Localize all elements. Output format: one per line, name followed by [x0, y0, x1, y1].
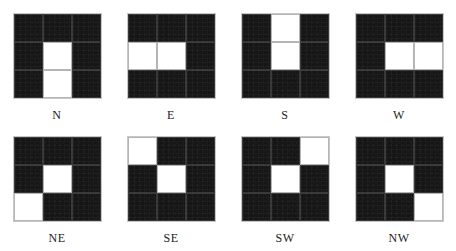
- grid-cell-r1-c3: [72, 137, 101, 165]
- grid-cell-r2-c1: [242, 42, 271, 70]
- pattern-label: NW: [388, 231, 409, 245]
- pattern-panel-w: W: [342, 13, 456, 122]
- grid-cell-r1-c2: [385, 137, 414, 165]
- grid-cell-r1-c3: [72, 14, 101, 42]
- grid-cell-r1-c2: [43, 137, 72, 165]
- grid-cell-r3-c1: [242, 70, 271, 98]
- pattern-panel-sw: SW: [228, 136, 342, 245]
- pattern-label: S: [281, 108, 288, 122]
- pattern-grid: [13, 13, 102, 99]
- grid-cell-r2-c2: [271, 165, 300, 193]
- grid-cell-r2-c3: [300, 165, 329, 193]
- grid-cell-r3-c1: [356, 193, 385, 221]
- pattern-panel-e: E: [114, 13, 228, 122]
- grid-cell-r2-c3: [300, 42, 329, 70]
- pattern-grid: [13, 136, 102, 222]
- grid-cell-r1-c2: [271, 137, 300, 165]
- grid-cell-r2-c1: [128, 165, 157, 193]
- grid-cell-r2-c1: [242, 165, 271, 193]
- grid-cell-r1-c3: [186, 14, 215, 42]
- grid-cell-r1-c1: [14, 137, 43, 165]
- pattern-grid: [241, 13, 330, 99]
- grid-cell-r2-c2: [157, 165, 186, 193]
- grid-cell-r3-c1: [356, 70, 385, 98]
- grid-cell-r1-c3: [414, 14, 443, 42]
- grid-cell-r2-c3: [186, 42, 215, 70]
- grid-cell-r2-c2: [385, 165, 414, 193]
- grid-cell-r3-c3: [300, 193, 329, 221]
- grid-cell-r1-c3: [414, 137, 443, 165]
- grid-cell-r3-c3: [414, 70, 443, 98]
- grid-cell-r2-c1: [14, 42, 43, 70]
- grid-cell-r3-c2: [271, 193, 300, 221]
- grid-cell-r2-c2: [43, 165, 72, 193]
- grid-cell-r2-c2: [43, 42, 72, 70]
- grid-cell-r3-c1: [128, 193, 157, 221]
- grid-cell-r1-c1: [242, 14, 271, 42]
- grid-cell-r1-c1: [356, 14, 385, 42]
- grid-cell-r1-c2: [157, 14, 186, 42]
- grid-cell-r3-c1: [14, 70, 43, 98]
- grid-cell-r2-c1: [356, 165, 385, 193]
- grid-cell-r2-c3: [72, 165, 101, 193]
- grid-cell-r3-c2: [385, 70, 414, 98]
- pattern-grid: [127, 13, 216, 99]
- grid-cell-r3-c3: [186, 70, 215, 98]
- grid-cell-r1-c1: [356, 137, 385, 165]
- pattern-grid: [241, 136, 330, 222]
- grid-cell-r1-c1: [128, 14, 157, 42]
- grid-cell-r2-c1: [356, 42, 385, 70]
- grid-cell-r1-c2: [385, 14, 414, 42]
- grid-cell-r2-c3: [414, 165, 443, 193]
- grid-cell-r3-c3: [300, 70, 329, 98]
- grid-cell-r1-c3: [300, 137, 329, 165]
- grid-cell-r3-c3: [72, 70, 101, 98]
- grid-cell-r1-c3: [300, 14, 329, 42]
- pattern-label: E: [167, 108, 175, 122]
- grid-cell-r2-c1: [128, 42, 157, 70]
- grid-cell-r1-c2: [157, 137, 186, 165]
- grid-cell-r1-c2: [43, 14, 72, 42]
- grid-cell-r2-c3: [186, 165, 215, 193]
- grid-cell-r1-c3: [186, 137, 215, 165]
- grid-cell-r2-c2: [271, 42, 300, 70]
- grid-cell-r3-c3: [414, 193, 443, 221]
- pattern-row-top: NESW: [0, 13, 456, 122]
- pattern-label: N: [52, 108, 61, 122]
- pattern-panel-n: N: [0, 13, 114, 122]
- grid-cell-r1-c1: [242, 137, 271, 165]
- grid-cell-r1-c2: [271, 14, 300, 42]
- pattern-panel-se: SE: [114, 136, 228, 245]
- grid-cell-r2-c3: [72, 42, 101, 70]
- grid-cell-r3-c1: [128, 70, 157, 98]
- grid-cell-r3-c3: [186, 193, 215, 221]
- grid-cell-r2-c2: [157, 42, 186, 70]
- pattern-label: SE: [163, 231, 178, 245]
- pattern-label: W: [393, 108, 405, 122]
- pattern-grid: [127, 136, 216, 222]
- direction-pattern-figure: NESW NESESWNW: [0, 0, 456, 251]
- pattern-label: SW: [275, 231, 294, 245]
- grid-cell-r1-c1: [128, 137, 157, 165]
- pattern-panel-nw: NW: [342, 136, 456, 245]
- grid-cell-r3-c1: [242, 193, 271, 221]
- grid-cell-r3-c2: [271, 70, 300, 98]
- grid-cell-r3-c2: [43, 193, 72, 221]
- grid-cell-r2-c2: [385, 42, 414, 70]
- grid-cell-r2-c1: [14, 165, 43, 193]
- grid-cell-r3-c2: [157, 70, 186, 98]
- grid-cell-r3-c2: [43, 70, 72, 98]
- pattern-panel-ne: NE: [0, 136, 114, 245]
- pattern-panel-s: S: [228, 13, 342, 122]
- grid-cell-r3-c1: [14, 193, 43, 221]
- pattern-label: NE: [48, 231, 65, 245]
- pattern-grid: [355, 136, 444, 222]
- grid-cell-r2-c3: [414, 42, 443, 70]
- grid-cell-r3-c3: [72, 193, 101, 221]
- grid-cell-r3-c2: [157, 193, 186, 221]
- pattern-grid: [355, 13, 444, 99]
- grid-cell-r1-c1: [14, 14, 43, 42]
- pattern-row-bottom: NESESWNW: [0, 136, 456, 245]
- grid-cell-r3-c2: [385, 193, 414, 221]
